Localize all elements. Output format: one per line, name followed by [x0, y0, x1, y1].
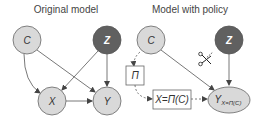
left-panel-title: Original model: [34, 4, 98, 15]
edge-pi-x: [135, 85, 152, 99]
node-x-policy: X=Π(C): [153, 90, 191, 109]
left-panel: Original model C Z X Y: [13, 4, 121, 115]
y-subscript: X=Π(C): [220, 100, 241, 106]
node-c-left: C: [13, 26, 41, 54]
svg-text:Z: Z: [103, 35, 111, 46]
svg-text:Z: Z: [225, 35, 233, 46]
node-y-right: YX=Π(C): [208, 87, 250, 113]
node-z-right: Z: [215, 26, 243, 54]
edge-c-x: [24, 54, 40, 93]
node-x-left: X: [38, 87, 66, 115]
node-y-left: Y: [93, 87, 121, 115]
node-c-right: C: [137, 26, 165, 54]
svg-text:Π: Π: [131, 70, 139, 81]
edge-z-x: [62, 51, 98, 90]
edge-c-pi: [134, 52, 140, 66]
node-pi: Π: [126, 66, 144, 85]
svg-text:X: X: [48, 96, 56, 107]
svg-text:C: C: [147, 35, 155, 46]
causal-diagram: Original model C Z X Y Model with policy: [0, 0, 258, 125]
svg-text:C: C: [23, 35, 31, 46]
node-z-left: Z: [93, 26, 121, 54]
scissors-icon: [199, 52, 213, 66]
right-panel-title: Model with policy: [152, 4, 228, 15]
right-panel: Model with policy C Z Π X: [126, 4, 250, 113]
svg-text:X=Π(C): X=Π(C): [154, 94, 189, 105]
edge-c-y-right: [161, 50, 214, 90]
